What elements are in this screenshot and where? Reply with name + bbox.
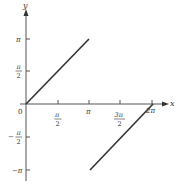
y-label-pi: π xyxy=(15,36,21,44)
y-axis-label: y xyxy=(22,1,28,10)
x-label-pi: π xyxy=(85,108,91,116)
y-label-neg-pi-half-den: 2 xyxy=(17,138,21,146)
y-label-neg-pi-half-sign: − xyxy=(8,133,14,141)
x-axis-label: x xyxy=(170,99,175,108)
segment-1 xyxy=(26,39,89,104)
y-label-pi-half-den: 2 xyxy=(17,72,21,80)
x-label-3pi-half-den: 2 xyxy=(118,120,122,128)
origin-label: 0 xyxy=(18,108,22,116)
y-label-pi-half-num: π xyxy=(16,63,22,71)
x-axis-arrow-icon xyxy=(162,102,169,107)
x-label-2pi: 2π xyxy=(145,107,155,115)
y-axis-arrow-icon xyxy=(24,9,29,16)
y-label-neg-pi: −π xyxy=(12,167,23,175)
y-label-neg-pi-half-num: π xyxy=(16,129,22,137)
x-label-3pi-half-num: 3π xyxy=(115,111,124,119)
sawtooth-chart: y x 0 π π 2 − π 2 −π π 2 π 3π 2 2π xyxy=(0,0,179,186)
x-label-pi-half-den: 2 xyxy=(56,120,60,128)
x-label-pi-half-num: π xyxy=(54,111,60,119)
